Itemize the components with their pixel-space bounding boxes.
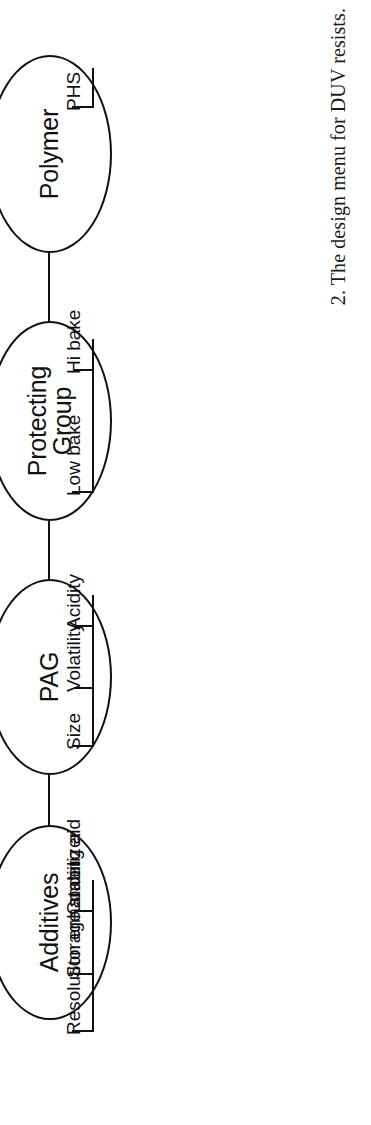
branch-baseline-pag — [92, 595, 94, 747]
branch-label-volatility: Volatility — [64, 622, 83, 692]
node-ellipse-additives[interactable]: Additives — [0, 825, 112, 1020]
node-protecting-group: Protecting Group Hi bake Low bake — [0, 311, 300, 521]
node-ellipse-polymer[interactable]: Polymer — [0, 55, 112, 253]
node-polymer: Polymer PHS — [0, 43, 300, 253]
node-label-polymer: Polymer — [37, 109, 63, 199]
branch-label-size: Size — [64, 713, 83, 750]
branch-label-hi-bake: Hi bake — [64, 310, 83, 374]
figure-caption: 2. The design menu for DUV resists. — [318, 0, 358, 1125]
figure-caption-text: 2. The design menu for DUV resists. — [327, 0, 350, 305]
branch-baseline-additives — [92, 880, 94, 1032]
node-ellipse-pag[interactable]: PAG — [0, 579, 112, 775]
branch-label-resolution-enhancer: Resolution enhancer — [64, 861, 83, 1035]
spine-additives-pag — [48, 770, 50, 830]
branch-baseline-protecting-group — [92, 339, 94, 493]
branch-baseline-polymer — [92, 68, 94, 108]
node-ellipse-protecting-group[interactable]: Protecting Group — [0, 321, 112, 521]
spine-pag-protecting-group — [48, 518, 50, 580]
node-pag: PAG Acidity Volatility Size — [0, 575, 300, 775]
branch-label-low-bake: Low bake — [64, 415, 83, 496]
diagram-stage: Additives Coating aid Storage stabilizer… — [0, 0, 300, 1125]
branch-label-phs: PHS — [64, 72, 83, 111]
node-label-additives: Additives — [37, 873, 63, 973]
node-label-pag: PAG — [37, 652, 63, 702]
figure-root: Additives Coating aid Storage stabilizer… — [0, 0, 371, 1125]
node-additives: Additives Coating aid Storage stabilizer… — [0, 825, 300, 1125]
